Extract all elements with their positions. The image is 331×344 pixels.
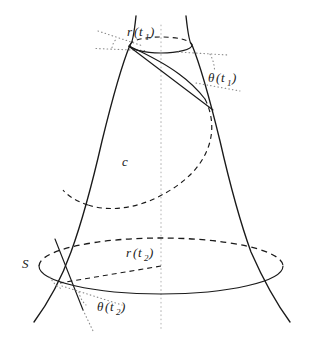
spiral-curve-c-front-lower bbox=[63, 190, 88, 205]
label-radius-top-paren-close: ) bbox=[149, 24, 154, 39]
label-radius-top-base: r bbox=[127, 24, 133, 39]
label-curve-c-base: c bbox=[122, 154, 128, 169]
label-angle-top-subscript: 1 bbox=[227, 78, 232, 88]
tangent-line-bottom bbox=[55, 239, 83, 310]
surface-of-revolution-diagram: r ( t 1 ) θ ( t 1 ) c S r ( t 2 ) bbox=[0, 0, 331, 344]
horizontal-reference-ray-top-right bbox=[178, 52, 228, 55]
label-angle-top-var: t bbox=[221, 70, 225, 85]
label-angle-top: θ ( t 1 ) bbox=[208, 70, 236, 88]
label-curve-c: c bbox=[122, 154, 128, 169]
label-angle-top-base: θ bbox=[208, 70, 215, 85]
spiral-curve-c-front-upper bbox=[131, 47, 205, 99]
angle-arc-top-right bbox=[210, 54, 215, 70]
left-silhouette-curve bbox=[34, 16, 136, 322]
angle-arc-top-left bbox=[112, 39, 117, 48]
tangent-line-top bbox=[129, 46, 214, 110]
label-radius-top-var: t bbox=[139, 24, 143, 39]
figure-canvas: r ( t 1 ) θ ( t 1 ) c S r ( t 2 ) bbox=[0, 0, 331, 344]
label-angle-bottom-paren-close: ) bbox=[120, 299, 125, 314]
label-radius-bottom-base: r bbox=[126, 245, 132, 260]
label-radius-bottom-paren-close: ) bbox=[148, 245, 153, 260]
label-radius-top: r ( t 1 ) bbox=[127, 24, 154, 42]
label-radius-top-subscript: 1 bbox=[145, 32, 150, 42]
label-radius-bottom-var: t bbox=[138, 245, 142, 260]
label-angle-bottom-base: θ bbox=[97, 299, 104, 314]
label-surface-s: S bbox=[22, 256, 29, 271]
label-radius-bottom: r ( t 2 ) bbox=[126, 245, 153, 263]
radius-segment-bottom bbox=[60, 266, 161, 283]
spiral-curve-c-back bbox=[88, 99, 212, 209]
label-angle-bottom-var: t bbox=[110, 299, 114, 314]
label-surface-s-base: S bbox=[22, 256, 29, 271]
label-angle-top-paren-close: ) bbox=[231, 70, 236, 85]
label-angle-bottom: θ ( t 2 ) bbox=[97, 299, 125, 317]
tangent-extension-ray-bottom bbox=[83, 310, 94, 333]
